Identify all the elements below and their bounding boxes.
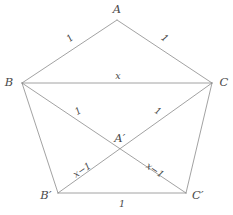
edge-B-Bprime [22,83,58,193]
length-label-BprimeCprime: 1 [119,199,125,209]
edge-A-B [22,20,117,83]
vertex-label-Cp: C′ [192,190,204,202]
vertex-label-B: B [5,77,14,89]
length-label-BC: x [115,71,120,81]
vertex-label-C: C [220,77,229,89]
figure-line-art [0,0,233,215]
geometry-figure: ABCB′C′A′11x11x−1x−11 [0,0,233,215]
edge-C-Cprime [186,83,212,193]
vertex-label-Bp: B′ [40,190,51,202]
vertex-label-A: A [113,4,122,16]
vertex-label-Ap: A′ [114,133,125,145]
edge-A-C [117,20,212,83]
